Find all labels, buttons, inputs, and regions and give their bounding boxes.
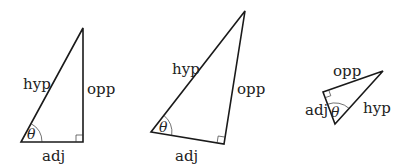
right-angle-marker [76,135,83,142]
triangle-1: θ hyp opp adj [21,28,115,165]
adj-label: adj [175,147,198,165]
opp-label: opp [87,80,115,98]
theta-label: θ [27,126,36,142]
opp-label: opp [237,80,265,98]
theta-label: θ [159,119,168,135]
opp-label: opp [333,62,361,80]
hyp-label: hyp [23,75,51,93]
adj-label: adj [42,147,65,165]
triangle-2: θ hyp opp adj [151,11,265,165]
adj-label: adj [305,101,328,119]
theta-label: θ [331,104,340,120]
triangles-figure: θ hyp opp adj θ hyp opp adj θ opp adj hy… [0,0,404,167]
hyp-label: hyp [172,60,200,78]
triangle-3: θ opp adj hyp [305,62,391,124]
hyp-label: hyp [363,99,391,117]
